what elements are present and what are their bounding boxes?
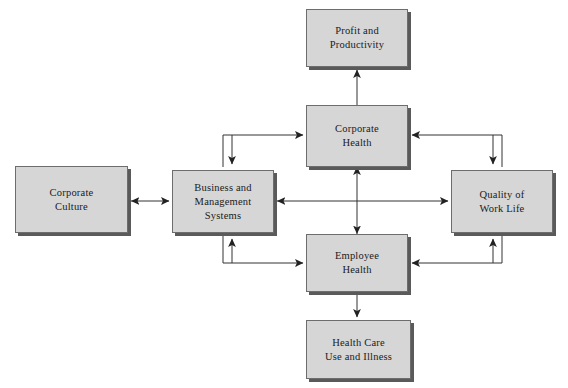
node-profit-and-productivity[interactable]: Profit and Productivity [306, 9, 408, 67]
node-label-employee-health: Employee Health [331, 249, 383, 277]
node-corporate-culture[interactable]: Corporate Culture [15, 166, 128, 233]
node-label-business-and-management-systems: Business and Management Systems [190, 181, 256, 223]
node-label-corporate-culture: Corporate Culture [46, 186, 98, 214]
node-label-health-care-use-and-illness: Health Care Use and Illness [321, 336, 396, 364]
edge-business-systems-to-corporate-health [223, 135, 303, 167]
edge-business-systems-to-employee-health [223, 236, 303, 263]
edge-quality-of-work-life-to-corporate-health [412, 135, 502, 167]
edge-quality-of-work-life-to-employee-health [412, 236, 502, 263]
node-label-profit-and-productivity: Profit and Productivity [326, 24, 388, 52]
diagram-canvas: Profit and Productivity Corporate Health… [0, 0, 568, 388]
node-corporate-health[interactable]: Corporate Health [306, 105, 408, 167]
node-quality-of-work-life[interactable]: Quality of Work Life [451, 170, 553, 233]
node-health-care-use-and-illness[interactable]: Health Care Use and Illness [306, 320, 411, 379]
node-label-quality-of-work-life: Quality of Work Life [476, 188, 529, 216]
node-business-and-management-systems[interactable]: Business and Management Systems [172, 170, 274, 233]
node-label-corporate-health: Corporate Health [331, 122, 383, 150]
node-employee-health[interactable]: Employee Health [306, 234, 408, 292]
